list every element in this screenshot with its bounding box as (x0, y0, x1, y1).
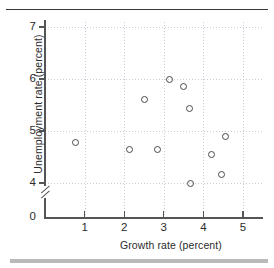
x-axis-tick-label: 4 (193, 221, 213, 233)
y-axis-title: Unemployment rate (percent) (32, 14, 44, 194)
data-point (141, 96, 148, 103)
data-point (222, 133, 229, 140)
data-point (154, 146, 161, 153)
x-axis-title: Growth rate (percent) (120, 239, 222, 251)
gridline-horizontal (45, 183, 262, 184)
gridline-horizontal (45, 79, 262, 80)
x-axis-tick (203, 211, 204, 217)
plot-area (45, 22, 262, 218)
data-point (186, 105, 193, 112)
data-point (126, 146, 133, 153)
y-axis-line-lower-segment (44, 198, 46, 219)
gridline-vertical (243, 22, 244, 218)
x-axis-tick-label: 1 (75, 221, 95, 233)
y-axis-line (44, 20, 46, 186)
scatter-chart-figure: 45670 12345 Unemployment rate (percent) … (0, 0, 274, 268)
y-axis-origin-label: 0 (18, 211, 36, 222)
data-point (180, 83, 187, 90)
data-point (187, 180, 194, 187)
data-point (72, 139, 79, 146)
gridline-vertical (85, 22, 86, 218)
data-point (208, 151, 215, 158)
x-axis-tick (242, 211, 243, 217)
x-axis-tick (84, 211, 85, 217)
data-point (218, 171, 225, 178)
x-axis-tick-label: 3 (154, 221, 174, 233)
gridline-vertical (164, 22, 165, 218)
x-axis-tick-label: 5 (233, 221, 253, 233)
gridline-horizontal (45, 27, 262, 28)
x-axis-tick (124, 211, 125, 217)
data-point (166, 76, 173, 83)
gridline-vertical (203, 22, 204, 218)
x-axis-line (44, 217, 263, 219)
gridline-horizontal (45, 131, 262, 132)
gridline-vertical (124, 22, 125, 218)
x-axis-tick-label: 2 (114, 221, 134, 233)
x-axis-tick (163, 211, 164, 217)
y-axis-title-wrapper: Unemployment rate (percent) (14, 0, 15, 1)
